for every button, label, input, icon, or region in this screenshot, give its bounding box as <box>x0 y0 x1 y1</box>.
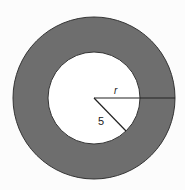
diagram-svg: r 5 <box>0 0 185 190</box>
annulus-diagram: r 5 <box>0 0 185 190</box>
inner-radius-label: 5 <box>98 115 104 127</box>
